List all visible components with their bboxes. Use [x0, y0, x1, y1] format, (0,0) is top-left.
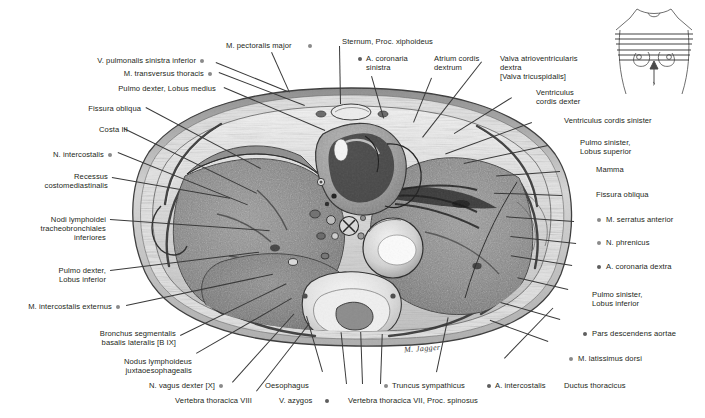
label-dot — [308, 44, 312, 48]
label-n-intercostalis: N. intercostalis — [0, 150, 104, 159]
label-pulmo-dexter-lobus-inferior: Pulmo dexter, Lobus inferior — [0, 266, 106, 284]
label-a-coronaria-dextra: A. coronaria dextra — [606, 262, 672, 271]
label-oesophagus: Oesophagus — [265, 381, 309, 390]
label-n-phrenicus: N. phrenicus — [606, 238, 650, 247]
figure-page: M. Jagger — [0, 0, 705, 418]
label-sternum-proc-xiphoideus: Sternum, Proc. xiphoideus — [342, 37, 433, 46]
label-pulmo-sinister-lobus-superior: Pulmo sinister, Lobus superior — [580, 138, 631, 156]
label-vertebra-thoracica-vii: Vertebra thoracica VII, Proc. spinosus — [348, 396, 478, 405]
label-a-intercostalis: A. intercostalis — [495, 381, 546, 390]
label-dot — [358, 57, 362, 61]
label-m-intercostalis-externus: M. intercostalis externus — [0, 302, 112, 311]
torso-orientation-inset — [606, 6, 702, 98]
label-mamma: Mamma — [596, 165, 624, 174]
label-ductus-thoracicus: Ductus thoracicus — [564, 381, 626, 390]
label-m-pectoralis-major: M. pectoralis major — [226, 41, 292, 50]
label-dot — [597, 241, 601, 245]
label-fissura-obliqua-left-side: Fissura obliqua — [0, 104, 141, 113]
label-recessus-costomediastinalis: Recessus costomediastinalis — [0, 172, 108, 190]
artist-signature: M. Jagger — [404, 343, 441, 355]
label-nodi-lymphoidei-tracheobronchiales-inferiores: Nodi lymphoidei tracheobronchiales infer… — [0, 215, 106, 243]
label-m-transversus-thoracis: M. transversus thoracis — [0, 69, 204, 78]
label-fissura-obliqua-right-side: Fissura obliqua — [596, 190, 649, 199]
label-dot — [597, 265, 601, 269]
label-valva-atrioventricularis-dextra: Valva atrioventricularis dextra [Valva t… — [500, 54, 578, 82]
label-atrium-cordis-dextrum: Atrium cordis dextrum — [434, 54, 479, 72]
label-dot — [325, 399, 329, 403]
label-dot — [583, 332, 587, 336]
label-ventriculus-cordis-dexter: Ventriculus cordis dexter — [536, 88, 580, 106]
label-v-pulmonalis-sinistra-inferior: V. pulmonalis sinistra inferior — [0, 56, 196, 65]
label-v-azygos: V. azygos — [279, 396, 312, 405]
label-costa-iii: Costa III — [0, 125, 128, 134]
label-dot — [200, 59, 204, 63]
label-pulmo-dexter-lobus-medius: Pulmo dexter, Lobus medius — [0, 84, 216, 93]
section-plane-lines — [615, 34, 693, 60]
label-a-coronaria-sinistra: A. coronaria sinistra — [366, 54, 408, 72]
label-vertebra-thoracica-viii: Vertebra thoracica VIII — [0, 396, 252, 405]
leader-line — [339, 46, 341, 104]
label-truncus-sympathicus: Truncus sympathicus — [392, 381, 465, 390]
label-pars-descendens-aortae: Pars descendens aortae — [592, 329, 676, 338]
label-bronchus-segmentalis-basalis-lateralis: Bronchus segmentalis basalis lateralis [… — [0, 329, 176, 347]
label-ventriculus-cordis-sinister: Ventriculus cordis sinister — [564, 116, 652, 125]
label-dot — [384, 384, 388, 388]
label-dot — [597, 218, 601, 222]
label-dot — [108, 153, 112, 157]
label-m-serratus-anterior: M. serratus anterior — [606, 215, 673, 224]
label-dot — [208, 72, 212, 76]
label-m-latissimus-dorsi: M. latissimus dorsi — [578, 354, 642, 363]
label-dot — [569, 357, 573, 361]
label-dot — [219, 384, 223, 388]
label-dot — [487, 384, 491, 388]
label-nodus-lymphoideus-juxtaoesophagealis: Nodus lymphoideus juxtaoesophagealis — [0, 357, 192, 375]
label-pulmo-sinister-lobus-inferior: Pulmo sinister, Lobus inferior — [592, 290, 643, 308]
label-n-vagus-dexter: N. vagus dexter [X] — [0, 381, 215, 390]
view-direction-arrow — [650, 61, 658, 84]
label-dot — [116, 305, 120, 309]
